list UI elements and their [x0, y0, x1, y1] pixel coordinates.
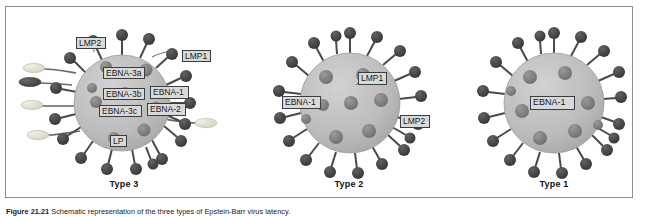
figure-caption-text: Schematic representation of the three ty…: [51, 207, 290, 216]
label-ebna-1-type3: EBNA-1: [150, 86, 189, 99]
label-ebna-3b: EBNA-3b: [103, 88, 145, 100]
spike: [556, 153, 568, 179]
spike: [548, 27, 560, 53]
spike: [512, 37, 528, 62]
spike: [603, 91, 627, 103]
spike: [383, 45, 406, 65]
spike: [587, 45, 610, 65]
label-ebna-3a: EBNA-3a: [103, 67, 145, 79]
spike: [49, 113, 76, 125]
spike: [331, 31, 342, 55]
spike: [57, 127, 81, 145]
figure-caption: Figure 21.21 Schematic representation of…: [6, 207, 646, 216]
spike: [528, 152, 540, 178]
spike: [75, 141, 93, 164]
figure-frame: LMP2 LMP1 EBNA-3a EBNA-3b EBNA-1 EBNA-3c…: [5, 6, 633, 198]
spike: [576, 146, 592, 170]
spike: [367, 31, 383, 56]
spike: [487, 129, 511, 147]
label-lmp1-type3: LMP1: [182, 50, 211, 62]
spike: [166, 70, 192, 85]
spike: [324, 152, 336, 178]
spike: [283, 129, 307, 147]
receptor-light: [23, 63, 76, 73]
spike: [274, 112, 301, 124]
spike: [308, 37, 324, 62]
figure-caption-number: Figure 21.21: [6, 207, 49, 216]
spike: [477, 85, 505, 97]
label-ebna-1-type1: EBNA-1: [530, 96, 575, 110]
label-lp: LP: [110, 135, 127, 147]
label-ebna-2: EBNA-2: [147, 103, 186, 116]
label-ebna-1-type2: EBNA-1: [282, 96, 321, 109]
spike: [490, 56, 513, 76]
spike: [64, 52, 86, 73]
panel-title-type-2: Type 2: [334, 179, 363, 189]
receptor-light: [21, 100, 74, 109]
spike: [140, 33, 155, 58]
spike: [344, 27, 356, 53]
label-lmp1-type2: LMP1: [358, 72, 387, 85]
spike: [504, 143, 523, 166]
spike: [478, 112, 505, 124]
spike: [372, 146, 388, 170]
spike: [571, 31, 587, 56]
spike: [286, 56, 309, 76]
spike: [352, 153, 364, 179]
spike: [130, 149, 142, 175]
spike: [601, 117, 625, 130]
spike: [535, 31, 546, 55]
spike: [598, 66, 625, 81]
spike: [394, 66, 421, 81]
spike: [300, 143, 319, 166]
spike: [101, 149, 113, 175]
panel-title-type-3: Type 3: [109, 179, 138, 189]
receptor-dark: [19, 77, 72, 86]
spike: [399, 90, 427, 102]
label-lmp2-type3: LMP2: [76, 37, 106, 49]
spike: [166, 115, 191, 130]
label-ebna-3c: EBNA-3c: [99, 105, 142, 117]
spike: [116, 29, 128, 55]
label-lmp2-type2: LMP2: [400, 115, 430, 128]
panel-title-type-1: Type 1: [539, 179, 568, 189]
spike: [156, 48, 178, 68]
